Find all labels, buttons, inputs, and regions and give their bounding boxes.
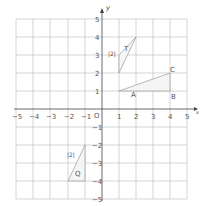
axes — [14, 10, 194, 201]
origin-label: O — [94, 112, 100, 120]
x-tick: −2 — [64, 113, 74, 121]
x-tick: 3 — [151, 113, 155, 121]
label-T-side: |2| — [108, 50, 116, 58]
x-tick: −3 — [46, 113, 56, 121]
label-A: A — [131, 91, 136, 99]
x-tick: 1 — [117, 113, 121, 121]
y-tick: 2 — [95, 70, 99, 78]
triangle-ABC — [119, 73, 170, 91]
y-tick: 1 — [95, 88, 99, 96]
x-tick: −4 — [29, 113, 40, 121]
y-tick: −5 — [92, 196, 102, 204]
y-arrow-icon — [100, 8, 104, 13]
y-tick: −2 — [92, 142, 102, 150]
x-tick: 2 — [134, 113, 138, 121]
x-tick: 5 — [185, 113, 189, 121]
y-tick: 3 — [95, 52, 99, 60]
labels: y x O −5 −4 −3 −2 −1 1 2 3 4 5 5 4 3 2 1… — [12, 4, 199, 204]
coordinate-grid: y x O −5 −4 −3 −2 −1 1 2 3 4 5 5 4 3 2 1… — [0, 0, 206, 206]
y-tick: −4 — [92, 178, 103, 186]
x-axis-label: x — [195, 109, 199, 115]
label-B: B — [171, 93, 176, 101]
x-tick: −5 — [12, 113, 22, 121]
x-tick: 4 — [168, 113, 173, 121]
label-Q-side: |2| — [67, 151, 75, 159]
y-tick: −3 — [92, 160, 102, 168]
label-Q: Q — [75, 170, 81, 178]
label-T: T — [123, 45, 129, 53]
y-axis-label: y — [105, 4, 111, 12]
x-tick: −1 — [81, 113, 91, 121]
y-tick: 4 — [95, 34, 100, 42]
y-tick: 5 — [95, 16, 99, 24]
y-tick: −1 — [92, 124, 102, 132]
label-C: C — [170, 66, 175, 74]
